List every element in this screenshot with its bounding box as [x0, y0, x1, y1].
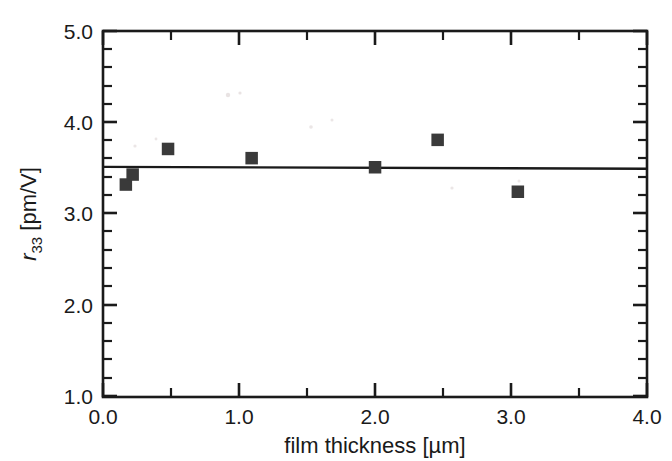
y-tick-label-4: 4.0	[64, 111, 93, 134]
data-point	[512, 186, 524, 199]
y-tick-label-2: 2.0	[64, 294, 93, 317]
data-point	[162, 143, 175, 156]
x-tick-label-0: 0.0	[88, 405, 117, 428]
y-axis-unit: [pm/V]	[16, 167, 41, 231]
chart-figure: 5.0 4.0 3.0 2.0 1.0 0.0 1.0 2.0 3.0 4.0 …	[0, 0, 672, 461]
x-tick-label-4: 4.0	[632, 405, 661, 428]
data-point	[431, 134, 444, 147]
data-point	[245, 152, 258, 165]
y-tick-label-5: 5.0	[64, 20, 93, 43]
y-axis-subscript: 33	[28, 237, 45, 254]
scatter-plot-svg: 5.0 4.0 3.0 2.0 1.0 0.0 1.0 2.0 3.0 4.0 …	[0, 0, 672, 461]
data-point	[126, 168, 138, 181]
y-tick-label-3: 3.0	[64, 202, 93, 225]
x-axis-title: film thickness [µm]	[284, 433, 465, 458]
x-tick-label-1: 1.0	[224, 405, 253, 428]
x-tick-label-3: 3.0	[496, 405, 525, 428]
x-tick-label-2: 2.0	[360, 405, 389, 428]
plot-background	[0, 0, 672, 461]
data-point	[369, 161, 382, 174]
